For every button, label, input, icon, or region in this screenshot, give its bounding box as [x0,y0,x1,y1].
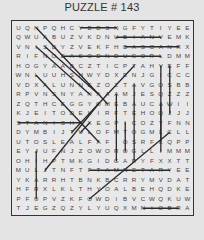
grid-cell[interactable]: W [23,33,32,43]
grid-cell[interactable]: U [121,52,130,62]
grid-cell[interactable]: E [138,90,147,100]
grid-cell[interactable]: T [130,61,139,71]
grid-cell[interactable]: N [85,175,94,185]
grid-cell[interactable]: H [41,156,50,166]
grid-cell[interactable]: M [165,147,174,157]
grid-cell[interactable]: R [156,166,165,176]
grid-cell[interactable]: Y [94,185,103,195]
grid-cell[interactable]: Z [76,147,85,157]
grid-cell[interactable]: T [32,99,41,109]
grid-cell[interactable]: B [85,23,94,33]
grid-cell[interactable]: B [67,61,76,71]
grid-cell[interactable]: L [85,204,94,214]
grid-cell[interactable]: T [183,156,192,166]
grid-cell[interactable]: O [121,137,130,147]
grid-cell[interactable]: L [156,128,165,138]
grid-cell[interactable]: U [103,204,112,214]
grid-cell[interactable]: K [85,33,94,43]
grid-cell[interactable]: X [41,185,50,195]
grid-cell[interactable]: E [14,147,23,157]
grid-cell[interactable]: V [130,194,139,204]
grid-cell[interactable]: E [174,166,183,176]
grid-cell[interactable]: G [130,147,139,157]
grid-cell[interactable]: Y [165,23,174,33]
grid-cell[interactable]: D [94,33,103,43]
grid-cell[interactable]: S [103,23,112,33]
grid-cell[interactable]: F [103,137,112,147]
grid-cell[interactable]: O [85,52,94,62]
grid-cell[interactable]: O [14,156,23,166]
grid-cell[interactable]: A [121,156,130,166]
grid-cell[interactable]: Y [165,166,174,176]
grid-cell[interactable]: D [103,71,112,81]
grid-cell[interactable]: I [156,23,165,33]
grid-cell[interactable]: M [112,166,121,176]
grid-cell[interactable]: I [32,156,41,166]
grid-cell[interactable]: Y [67,90,76,100]
grid-cell[interactable]: T [14,204,23,214]
grid-cell[interactable]: D [94,52,103,62]
grid-cell[interactable]: L [174,128,183,138]
grid-cell[interactable]: E [32,109,41,119]
grid-cell[interactable]: F [32,52,41,62]
grid-cell[interactable]: P [23,90,32,100]
grid-cell[interactable]: F [183,61,192,71]
grid-cell[interactable]: M [130,204,139,214]
grid-cell[interactable]: U [112,33,121,43]
grid-cell[interactable]: Z [165,90,174,100]
grid-cell[interactable]: Z [85,61,94,71]
grid-cell[interactable]: G [147,71,156,81]
grid-cell[interactable]: N [32,23,41,33]
grid-cell[interactable]: N [85,90,94,100]
grid-cell[interactable]: I [94,109,103,119]
grid-cell[interactable]: I [147,204,156,214]
grid-cell[interactable]: X [183,42,192,52]
grid-cell[interactable]: N [23,71,32,81]
grid-cell[interactable]: A [103,90,112,100]
grid-cell[interactable]: I [32,42,41,52]
grid-cell[interactable]: K [165,194,174,204]
grid-cell[interactable]: O [103,185,112,195]
grid-cell[interactable]: Y [138,175,147,185]
grid-cell[interactable]: H [138,109,147,119]
grid-cell[interactable]: T [50,109,59,119]
grid-cell[interactable]: C [174,71,183,81]
grid-cell[interactable]: T [67,175,76,185]
grid-cell[interactable]: N [58,166,67,176]
grid-cell[interactable]: O [156,204,165,214]
grid-cell[interactable]: R [138,137,147,147]
grid-cell[interactable]: S [165,80,174,90]
grid-cell[interactable]: E [165,33,174,43]
grid-cell[interactable]: B [121,42,130,52]
grid-cell[interactable]: Z [147,118,156,128]
grid-cell[interactable]: W [85,71,94,81]
grid-cell[interactable]: G [138,128,147,138]
grid-cell[interactable]: M [32,128,41,138]
grid-cell[interactable]: T [183,175,192,185]
grid-cell[interactable]: A [130,80,139,90]
grid-cell[interactable]: E [32,204,41,214]
grid-cell[interactable]: E [183,185,192,195]
grid-cell[interactable]: I [50,118,59,128]
grid-cell[interactable]: P [121,61,130,71]
grid-cell[interactable]: K [174,185,183,195]
grid-cell[interactable]: V [156,175,165,185]
grid-cell[interactable]: M [103,99,112,109]
grid-cell[interactable]: N [121,166,130,176]
grid-cell[interactable]: K [58,185,67,195]
grid-cell[interactable]: L [76,137,85,147]
grid-cell[interactable]: Q [156,194,165,204]
grid-cell[interactable]: S [14,118,23,128]
grid-cell[interactable]: K [67,194,76,204]
grid-cell[interactable]: E [130,109,139,119]
grid-cell[interactable]: F [50,147,59,157]
grid-cell[interactable]: C [76,61,85,71]
grid-cell[interactable]: F [174,61,183,71]
grid-cell[interactable]: H [58,71,67,81]
grid-cell[interactable]: I [50,128,59,138]
grid-cell[interactable]: Y [156,118,165,128]
grid-cell[interactable]: I [112,194,121,204]
grid-cell[interactable]: I [156,147,165,157]
grid-cell[interactable]: G [103,118,112,128]
grid-cell[interactable]: G [121,23,130,33]
